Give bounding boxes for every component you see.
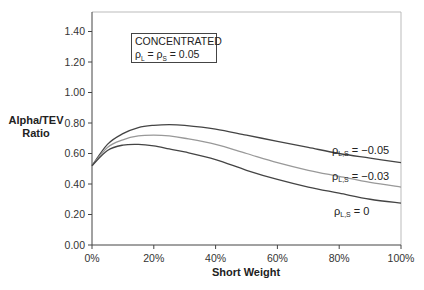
x-axis-title: Short Weight — [212, 266, 281, 278]
x-tick-label: 0% — [84, 252, 99, 264]
y-axis-title-line2: Ratio — [22, 127, 50, 139]
y-tick-label: 0.00 — [65, 239, 86, 251]
series-label: ρL,S = 0 — [334, 205, 369, 218]
x-tick-label: 100% — [388, 252, 415, 264]
y-tick-label: 0.60 — [65, 147, 86, 159]
y-tick-label: 0.40 — [65, 178, 86, 190]
x-tick-label: 20% — [143, 252, 164, 264]
series-label: ρL,S = −0.03 — [332, 170, 389, 183]
y-tick-label: 1.00 — [65, 86, 86, 98]
x-tick-label: 80% — [329, 252, 350, 264]
annotation-box: CONCENTRATED ρL = ρS = 0.05 — [131, 33, 217, 63]
y-axis-ticks: 0.000.200.400.600.801.001.201.40 — [65, 25, 92, 251]
y-tick-label: 1.40 — [65, 25, 86, 37]
x-tick-label: 60% — [267, 252, 288, 264]
y-tick-label: 1.20 — [65, 56, 86, 68]
series-label: ρL,S = −0.05 — [332, 144, 389, 157]
x-axis-ticks: 0%20%40%60%80%100% — [84, 245, 414, 264]
y-axis-title-line1: Alpha/TEV — [8, 114, 64, 126]
annotation-line2: ρL = ρS = 0.05 — [135, 48, 213, 65]
series-lines — [92, 125, 401, 204]
y-tick-label: 0.20 — [65, 208, 86, 220]
y-tick-label: 0.80 — [65, 117, 86, 129]
annotation-line1: CONCENTRATED — [135, 35, 213, 48]
series-labels: ρL,S = −0.05ρL,S = −0.03ρL,S = 0 — [332, 144, 389, 218]
x-tick-label: 40% — [205, 252, 226, 264]
